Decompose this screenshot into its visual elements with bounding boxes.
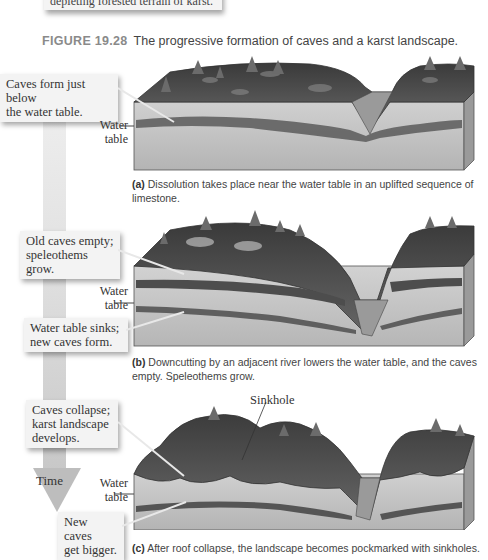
previous-text-box: depleting forested terrain of karst.	[44, 0, 222, 10]
leader-line-b2	[126, 310, 186, 334]
block-diagram-a	[130, 52, 482, 172]
caption-b: (b) Downcutting by an adjacent river low…	[132, 355, 482, 383]
caption-text: Dissolution takes place near the water t…	[132, 178, 473, 204]
callout-line: Old caves empty;	[26, 234, 114, 248]
callout-new-caves-bigger: New caves get bigger.	[58, 512, 124, 560]
water-table-tick-a	[120, 124, 134, 128]
water-table-label-b: Water table	[84, 284, 128, 312]
water-table-tick-c	[114, 492, 134, 496]
water-table-line: Water	[84, 284, 128, 298]
callout-line: develops.	[32, 431, 112, 445]
callout-line: Caves form just below	[6, 77, 112, 105]
callout-line: the water table.	[6, 105, 112, 119]
time-label: Time	[36, 473, 63, 489]
callout-line: get bigger.	[64, 543, 118, 557]
callout-line: Caves collapse;	[32, 403, 112, 417]
caption-letter: (a)	[132, 178, 145, 190]
callout-caves-form: Caves form just below the water table.	[0, 74, 118, 122]
callout-line: speleothems grow.	[26, 248, 114, 276]
callout-line: New caves	[64, 515, 118, 543]
caption-letter: (c)	[132, 542, 145, 554]
caption-a: (a) Dissolution takes place near the wat…	[132, 177, 482, 205]
callout-old-caves-empty: Old caves empty; speleothems grow.	[20, 231, 120, 279]
callout-water-table-sinks: Water table sinks; new caves form.	[24, 318, 128, 352]
leader-line-c2	[122, 500, 188, 530]
callout-line: Water table sinks;	[30, 321, 122, 335]
leader-line-b1	[118, 248, 188, 278]
caption-text: Downcutting by an adjacent river lowers …	[132, 356, 477, 382]
water-table-tick-b	[114, 301, 134, 305]
caption-text: After roof collapse, the landscape becom…	[145, 542, 480, 554]
figure-title-text: The progressive formation of caves and a…	[134, 34, 458, 48]
previous-text: depleting forested terrain of karst.	[50, 0, 213, 8]
water-table-line: Water	[84, 476, 128, 490]
callout-line: karst landscape	[32, 417, 112, 431]
figure-title: FIGURE 19.28The progressive formation of…	[42, 34, 458, 48]
figure-number: FIGURE 19.28	[42, 34, 128, 48]
caption-letter: (b)	[132, 356, 145, 368]
water-table-label-a: Water table	[84, 118, 128, 146]
water-table-line: table	[84, 132, 128, 146]
caption-c: (c) After roof collapse, the landscape b…	[132, 541, 488, 555]
callout-line: new caves form.	[30, 335, 122, 349]
leader-line-c1	[118, 420, 188, 480]
callout-caves-collapse: Caves collapse; karst landscape develops…	[26, 400, 118, 448]
